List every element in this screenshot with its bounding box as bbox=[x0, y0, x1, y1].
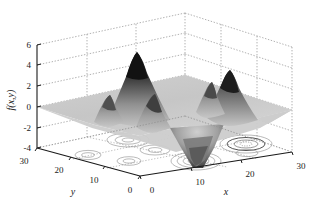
z-tick-label: 4 bbox=[27, 60, 32, 70]
z-tick-marks bbox=[37, 44, 41, 148]
y-tick-label: 30 bbox=[20, 156, 30, 166]
y-tick-label: 10 bbox=[90, 175, 100, 185]
plot-canvas: 6 4 2 0 -2 -4 30 20 10 0 0 10 20 30 f(x,… bbox=[0, 0, 320, 222]
y-tick-label: 0 bbox=[128, 185, 133, 195]
y-tick-label: 20 bbox=[55, 165, 65, 175]
x-axis-title: x bbox=[223, 186, 229, 197]
x-tick-label: 10 bbox=[196, 177, 206, 187]
x-tick-label: 20 bbox=[246, 169, 256, 179]
x-tick-label: 30 bbox=[297, 161, 307, 171]
z-tick-labels: 6 4 2 0 -2 -4 bbox=[24, 40, 32, 153]
surface-plot-figure: 6 4 2 0 -2 -4 30 20 10 0 0 10 20 30 f(x,… bbox=[0, 0, 320, 222]
z-tick-label: -2 bbox=[24, 123, 32, 133]
z-tick-label: 0 bbox=[27, 102, 32, 112]
z-tick-label: -4 bbox=[24, 143, 32, 153]
z-tick-label: 2 bbox=[27, 81, 32, 91]
z-axis-title: f(x,y) bbox=[5, 89, 17, 110]
y-axis-title: y bbox=[70, 186, 76, 197]
z-tick-label: 6 bbox=[27, 40, 32, 50]
x-tick-label: 0 bbox=[150, 185, 155, 195]
